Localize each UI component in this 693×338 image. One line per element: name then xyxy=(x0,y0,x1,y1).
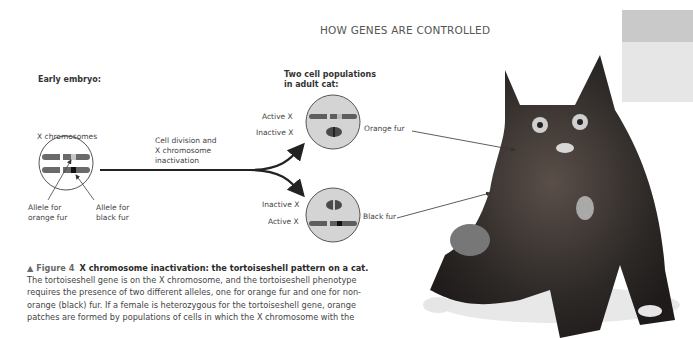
process-label-line3: inactivation xyxy=(155,156,217,166)
top-active-x-label: Active X xyxy=(262,112,293,122)
orange-allele-line1: Allele for xyxy=(28,203,67,213)
top-inactive-x-label: Inactive X xyxy=(256,128,293,138)
black-fur-pointer xyxy=(397,193,490,218)
orange-allele-line2: orange fur xyxy=(28,213,67,223)
early-embryo-label: Early embryo: xyxy=(38,75,101,85)
black-allele-label: Allele for black fur xyxy=(96,203,129,223)
process-label: Cell division and X chromosome inactivat… xyxy=(155,136,217,166)
bottom-active-x-label: Active X xyxy=(268,217,299,227)
orange-fur-pointer xyxy=(412,131,515,150)
adult-cat-title: Two cell populations in adult cat: xyxy=(284,70,376,90)
bottom-inactive-x-label: Inactive X xyxy=(262,200,299,210)
adult-title-line2: in adult cat: xyxy=(284,80,376,90)
caption-body: The tortoiseshell gene is on the X chrom… xyxy=(27,275,361,322)
process-label-line1: Cell division and xyxy=(155,136,217,146)
embryo-cell xyxy=(39,136,93,190)
orange-allele-label: Allele for orange fur xyxy=(28,203,67,223)
black-fur-cell xyxy=(306,188,360,242)
x-chromosomes-label: X chromosomes xyxy=(37,132,97,142)
tortoiseshell-cat-photo xyxy=(423,55,680,338)
figure-marker: ▲ Figure 4 xyxy=(27,263,74,273)
adult-title-line1: Two cell populations xyxy=(284,70,376,80)
figure-caption: ▲ Figure 4 X chromosome inactivation: th… xyxy=(27,262,372,323)
caption-title: X chromosome inactivation: the tortoises… xyxy=(80,263,369,273)
orange-fur-cell xyxy=(306,95,360,149)
black-allele-line1: Allele for xyxy=(96,203,129,213)
black-allele-line2: black fur xyxy=(96,213,129,223)
orange-fur-label: Orange fur xyxy=(364,124,405,134)
process-label-line2: X chromosome xyxy=(155,146,217,156)
black-fur-label: Black fur xyxy=(363,212,396,222)
